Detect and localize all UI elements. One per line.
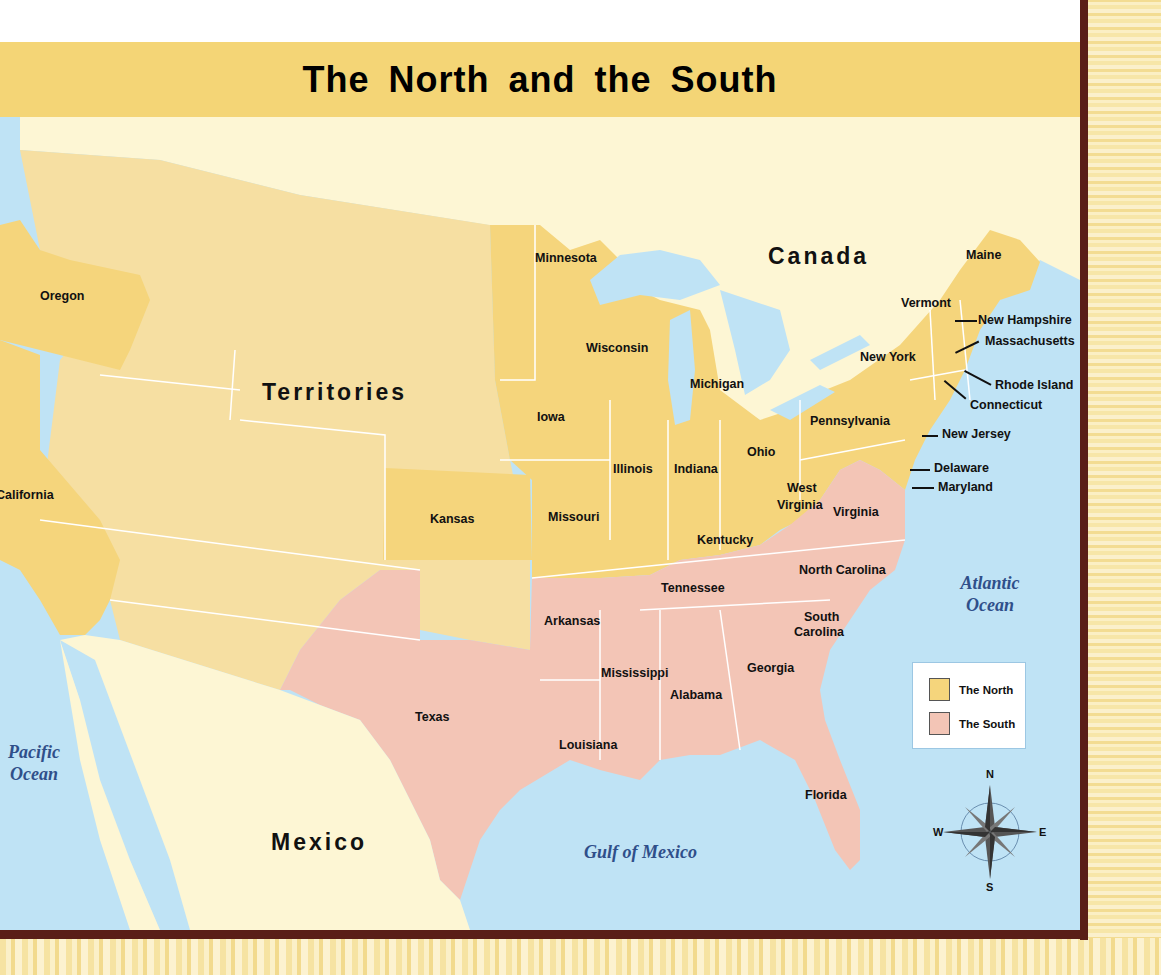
label-michigan: Michigan — [690, 377, 744, 391]
map-frame-right — [1080, 0, 1088, 940]
label-missouri: Missouri — [548, 510, 599, 524]
compass-west: W — [933, 825, 943, 839]
label-kentucky: Kentucky — [697, 533, 753, 547]
compass-north: N — [986, 767, 994, 781]
label-new-jersey: New Jersey — [942, 427, 1011, 441]
compass-south: S — [986, 880, 993, 894]
label-indiana: Indiana — [674, 462, 718, 476]
legend-item-north: The North — [929, 678, 1013, 701]
atlantic-line-2: Ocean — [940, 594, 1040, 616]
compass-rose-icon: N S W E — [925, 770, 1045, 895]
label-texas: Texas — [415, 710, 450, 724]
map-shapes — [0, 117, 1080, 930]
label-new-york: New York — [860, 350, 916, 364]
label-california: California — [0, 488, 54, 502]
label-new-hampshire: New Hampshire — [978, 313, 1072, 327]
pacific-line-1: Pacific — [0, 741, 74, 763]
map-area: Territories Canada Mexico Pacific Ocean … — [0, 117, 1080, 930]
label-north-carolina: North Carolina — [799, 563, 886, 577]
atlantic-line-1: Atlantic — [940, 572, 1040, 594]
legend-label-south: The South — [959, 718, 1015, 730]
label-south-carolina-2: Carolina — [794, 625, 844, 639]
label-arkansas: Arkansas — [544, 614, 600, 628]
label-west-virginia-2: Virginia — [777, 498, 823, 512]
legend-swatch-south — [929, 712, 950, 735]
map-title: The North and the South — [303, 59, 778, 101]
label-ohio: Ohio — [747, 445, 775, 459]
label-vermont: Vermont — [901, 296, 951, 310]
label-louisiana: Louisiana — [559, 738, 617, 752]
label-rhode-island: Rhode Island — [995, 378, 1073, 392]
paper-texture-bottom — [0, 938, 1161, 975]
label-iowa: Iowa — [537, 410, 565, 424]
label-virginia: Virginia — [833, 505, 879, 519]
mexico-label: Mexico — [271, 829, 367, 856]
pacific-line-2: Ocean — [0, 763, 74, 785]
label-wisconsin: Wisconsin — [586, 341, 648, 355]
label-alabama: Alabama — [670, 688, 722, 702]
label-maine: Maine — [966, 248, 1001, 262]
label-south-carolina-1: South — [804, 610, 839, 624]
canada-label: Canada — [768, 243, 869, 270]
title-band: The North and the South — [0, 42, 1080, 117]
gulf-of-mexico-label: Gulf of Mexico — [584, 841, 697, 863]
legend-item-south: The South — [929, 712, 1015, 735]
label-kansas: Kansas — [430, 512, 474, 526]
label-tennessee: Tennessee — [661, 581, 725, 595]
leader-new-hampshire — [955, 320, 977, 322]
label-massachusetts: Massachusetts — [985, 334, 1075, 348]
leader-delaware — [910, 469, 930, 471]
atlantic-ocean-label: Atlantic Ocean — [940, 572, 1040, 616]
legend-swatch-north — [929, 678, 950, 701]
label-west-virginia-1: West — [787, 481, 817, 495]
pacific-ocean-label: Pacific Ocean — [0, 741, 74, 785]
label-pennsylvania: Pennsylvania — [810, 414, 890, 428]
paper-texture-right — [1088, 0, 1161, 975]
label-georgia: Georgia — [747, 661, 794, 675]
label-illinois: Illinois — [613, 462, 653, 476]
leader-maryland — [912, 487, 934, 489]
label-florida: Florida — [805, 788, 847, 802]
label-minnesota: Minnesota — [535, 251, 597, 265]
legend-label-north: The North — [959, 684, 1013, 696]
label-mississippi: Mississippi — [601, 666, 668, 680]
territories-label: Territories — [262, 379, 407, 406]
label-maryland: Maryland — [938, 480, 993, 494]
label-oregon: Oregon — [40, 289, 84, 303]
leader-new-jersey — [922, 435, 938, 437]
label-connecticut: Connecticut — [970, 398, 1042, 412]
label-delaware: Delaware — [934, 461, 989, 475]
compass-east: E — [1039, 825, 1046, 839]
map-frame-bottom — [0, 930, 1088, 939]
map-legend: The North The South — [912, 662, 1026, 749]
